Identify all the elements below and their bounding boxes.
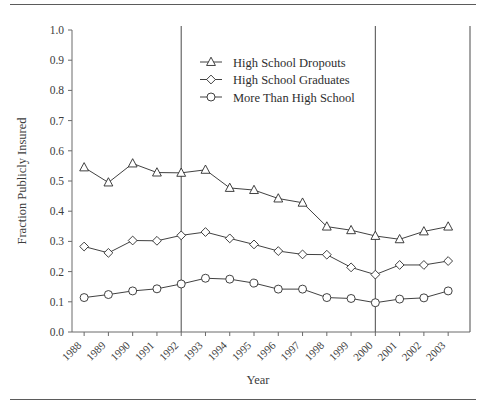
x-tick-label: 2001 bbox=[375, 339, 399, 363]
legend-label: More Than High School bbox=[233, 91, 355, 105]
data-series-group bbox=[80, 159, 453, 307]
data-point-marker bbox=[347, 263, 356, 272]
data-point-marker bbox=[274, 247, 283, 256]
series-2 bbox=[80, 228, 453, 279]
x-tick-label: 1997 bbox=[278, 339, 302, 363]
data-point-marker bbox=[153, 168, 162, 176]
data-point-marker bbox=[80, 242, 89, 251]
data-point-marker bbox=[225, 234, 234, 243]
data-point-marker bbox=[104, 248, 113, 257]
data-point-marker bbox=[323, 294, 331, 302]
data-point-marker bbox=[250, 279, 258, 287]
data-point-marker bbox=[396, 295, 404, 303]
data-point-marker bbox=[250, 240, 259, 249]
series-3 bbox=[80, 274, 452, 306]
data-point-marker bbox=[153, 236, 162, 245]
legend-label: High School Dropouts bbox=[233, 56, 346, 70]
data-point-marker bbox=[225, 183, 234, 191]
data-point-marker bbox=[371, 270, 380, 279]
y-tick-label: 0.7 bbox=[50, 115, 65, 127]
data-point-marker bbox=[444, 287, 452, 295]
y-tick-label: 0.5 bbox=[50, 175, 65, 187]
x-tick-label: 1993 bbox=[181, 339, 205, 363]
x-tick-label: 2002 bbox=[399, 339, 423, 363]
x-tick-label: 2003 bbox=[424, 339, 448, 363]
x-tick-label: 1999 bbox=[326, 339, 350, 363]
y-tick-label: 0.9 bbox=[50, 54, 65, 66]
x-tick-label: 1991 bbox=[132, 339, 156, 363]
series-line-1 bbox=[84, 163, 448, 239]
y-axis-ticks: 0.00.10.20.30.40.50.60.70.80.91.0 bbox=[50, 24, 72, 338]
data-point-marker bbox=[322, 250, 331, 259]
y-tick-label: 0.1 bbox=[50, 296, 65, 308]
legend-label: High School Graduates bbox=[233, 73, 350, 87]
y-tick-label: 0.0 bbox=[50, 326, 65, 338]
data-point-marker bbox=[153, 285, 161, 293]
legend-marker-circle bbox=[207, 93, 215, 101]
data-point-marker bbox=[104, 178, 113, 186]
x-tick-label: 1994 bbox=[205, 339, 229, 363]
y-tick-label: 0.2 bbox=[50, 266, 65, 278]
series-1 bbox=[80, 159, 453, 243]
x-tick-label: 1988 bbox=[60, 339, 84, 363]
data-point-marker bbox=[128, 236, 137, 245]
data-point-marker bbox=[395, 261, 404, 270]
data-point-marker bbox=[201, 228, 210, 237]
y-axis-title: Fraction Publicly Insured bbox=[15, 117, 29, 245]
data-point-marker bbox=[201, 274, 209, 282]
x-tick-label: 1989 bbox=[84, 339, 108, 363]
y-tick-label: 0.8 bbox=[50, 84, 65, 96]
legend-item-1: High School Dropouts bbox=[200, 56, 346, 70]
data-point-marker bbox=[129, 287, 137, 295]
x-tick-label: 1998 bbox=[302, 339, 326, 363]
data-point-marker bbox=[444, 257, 453, 266]
y-tick-label: 0.3 bbox=[50, 235, 65, 247]
x-axis-title: Year bbox=[246, 373, 270, 387]
data-point-marker bbox=[177, 231, 186, 240]
data-point-marker bbox=[444, 222, 453, 230]
data-point-marker bbox=[80, 163, 89, 171]
x-axis-ticks: 1988198919901991199219931994199519961997… bbox=[60, 332, 449, 363]
legend-item-3: More Than High School bbox=[200, 91, 355, 105]
chart-legend: High School DropoutsHigh School Graduate… bbox=[200, 56, 355, 105]
data-point-marker bbox=[420, 294, 428, 302]
legend-marker-triangle bbox=[207, 57, 216, 65]
data-point-marker bbox=[226, 275, 234, 283]
x-tick-label: 1992 bbox=[157, 339, 181, 363]
x-tick-label: 1990 bbox=[108, 339, 132, 363]
data-point-marker bbox=[347, 294, 355, 302]
series-line-3 bbox=[84, 278, 448, 302]
data-point-marker bbox=[419, 261, 428, 270]
y-tick-label: 1.0 bbox=[50, 24, 65, 36]
data-point-marker bbox=[104, 291, 112, 299]
x-tick-label: 2000 bbox=[351, 339, 375, 363]
data-point-marker bbox=[80, 294, 88, 302]
x-tick-label: 1996 bbox=[254, 339, 278, 363]
legend-marker-diamond bbox=[207, 75, 216, 84]
line-chart: 0.00.10.20.30.40.50.60.70.80.91.0 198819… bbox=[0, 0, 486, 408]
data-point-marker bbox=[128, 159, 137, 167]
y-tick-label: 0.4 bbox=[50, 205, 65, 217]
reference-lines-group bbox=[181, 26, 470, 332]
data-point-marker bbox=[274, 285, 282, 293]
x-tick-label: 1995 bbox=[229, 339, 253, 363]
legend-item-2: High School Graduates bbox=[200, 73, 350, 87]
y-tick-label: 0.6 bbox=[50, 145, 65, 157]
data-point-marker bbox=[201, 165, 210, 173]
data-point-marker bbox=[177, 280, 185, 288]
data-point-marker bbox=[298, 250, 307, 259]
figure-container: 0.00.10.20.30.40.50.60.70.80.91.0 198819… bbox=[0, 0, 486, 408]
data-point-marker bbox=[299, 285, 307, 293]
data-point-marker bbox=[371, 299, 379, 307]
